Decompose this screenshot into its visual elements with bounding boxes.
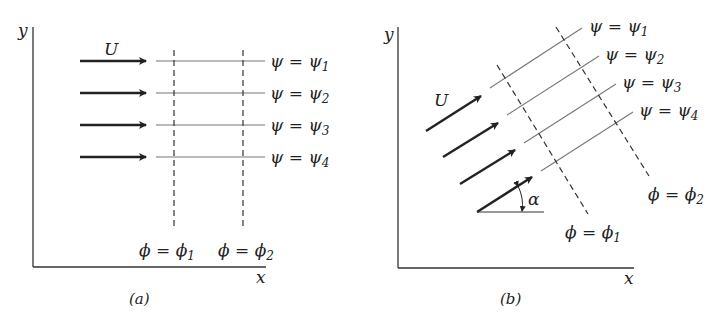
streamline-label: ψ = ψ1 xyxy=(589,16,648,39)
velocity-arrow-icon xyxy=(477,177,532,212)
y-axis-label: y xyxy=(17,20,28,40)
streamline-label: ψ = ψ3 xyxy=(622,72,682,95)
angle-arc-icon xyxy=(518,186,523,211)
panel-caption: (b) xyxy=(500,290,521,308)
y-axis-label: y xyxy=(383,24,394,44)
streamline-label: ψ = ψ3 xyxy=(270,115,330,138)
streamline xyxy=(490,28,582,88)
velocity-label: U xyxy=(104,39,119,59)
streamline-label: ψ = ψ2 xyxy=(270,83,329,106)
angle-label: α xyxy=(528,189,540,209)
panel-a: y x U ψ = ψ1 ψ = ψ2 ψ = ψ3 ψ = ψ4 ϕ = ϕ1… xyxy=(17,20,330,308)
potential-label: ϕ = ϕ2 xyxy=(218,240,274,263)
streamline xyxy=(541,112,633,171)
streamline-label: ψ = ψ4 xyxy=(639,100,698,123)
velocity-label: U xyxy=(434,90,449,110)
x-axis-label: x xyxy=(624,268,634,288)
streamline-label: ψ = ψ4 xyxy=(270,147,329,170)
potential-label: ϕ = ϕ1 xyxy=(565,222,621,245)
streamline-label: ψ = ψ2 xyxy=(605,44,664,67)
potential-label: ϕ = ϕ2 xyxy=(648,184,704,207)
streamline xyxy=(524,84,616,143)
flow-diagram: y x U ψ = ψ1 ψ = ψ2 ψ = ψ3 ψ = ψ4 ϕ = ϕ1… xyxy=(0,0,722,330)
x-axis-label: x xyxy=(256,267,266,287)
panel-b: y x U α ψ = ψ1 ψ = ψ2 ψ = ψ3 ψ = ψ4 ϕ = … xyxy=(383,16,704,308)
potential-label: ϕ = ϕ1 xyxy=(139,240,195,263)
streamline-label: ψ = ψ1 xyxy=(270,51,329,74)
panel-caption: (a) xyxy=(129,290,150,308)
streamline xyxy=(507,56,599,115)
velocity-arrow-icon xyxy=(443,123,498,157)
velocity-arrow-icon xyxy=(460,150,515,184)
